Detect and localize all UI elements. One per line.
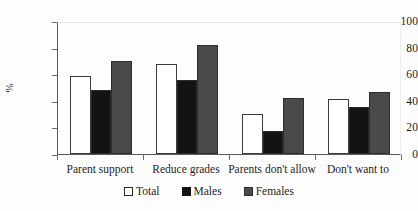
x-tick-mark [143, 155, 144, 160]
x-tick-mark [315, 155, 316, 160]
bar-group [242, 23, 304, 154]
legend-item: Males [182, 186, 222, 198]
bar-group [328, 23, 390, 154]
bar-females [369, 92, 390, 155]
legend-label: Total [136, 186, 159, 198]
legend-label: Females [256, 186, 294, 198]
x-tick-mark [57, 155, 58, 160]
x-tick-mark [401, 155, 402, 160]
x-tick-mark [229, 155, 230, 160]
legend-item: Females [244, 186, 294, 198]
x-tick-label: Reduce grades [152, 163, 219, 175]
bar-group [156, 23, 218, 154]
bar-females [283, 98, 304, 154]
bar-females [197, 45, 218, 154]
bar-males [349, 107, 370, 154]
x-tick-label: Parent support [67, 163, 134, 175]
x-tick-label: Parents don't allow [228, 163, 316, 175]
legend-swatch-icon [182, 187, 191, 196]
bar-total [242, 114, 263, 154]
plot-area [57, 22, 401, 155]
bar-males [263, 131, 284, 154]
legend-swatch-icon [124, 187, 133, 196]
y-axis-title: % [3, 77, 15, 99]
bar-total [328, 99, 349, 154]
chart-legend: TotalMalesFemales [0, 186, 418, 198]
legend-item: Total [124, 186, 159, 198]
bar-males [91, 90, 112, 154]
bar-chart-figure: % 100806040200 Parent supportReduce grad… [0, 0, 418, 211]
legend-label: Males [194, 186, 222, 198]
bar-total [156, 64, 177, 154]
bar-males [177, 80, 198, 154]
x-tick-label: Don't want to [327, 163, 389, 175]
bar-total [70, 76, 91, 154]
bar-females [111, 61, 132, 154]
bar-group [70, 23, 132, 154]
legend-swatch-icon [244, 187, 253, 196]
